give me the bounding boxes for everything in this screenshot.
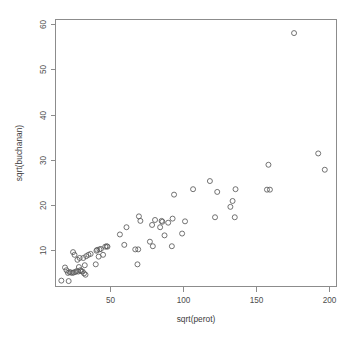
plot-canvas: 50100150200 102030405060 sqrt(perot) sqr… bbox=[0, 0, 357, 342]
data-point bbox=[267, 187, 272, 192]
data-point bbox=[316, 151, 321, 156]
data-point bbox=[233, 187, 238, 192]
x-axis-title: sqrt(perot) bbox=[177, 314, 216, 324]
y-axis-title: sqrt(buchanan) bbox=[14, 125, 24, 182]
data-point bbox=[228, 204, 233, 209]
data-point bbox=[230, 198, 235, 203]
data-point bbox=[122, 242, 127, 247]
data-point bbox=[169, 244, 174, 249]
data-point bbox=[180, 231, 185, 236]
data-point bbox=[153, 217, 158, 222]
scatter-plot-figure: 50100150200 102030405060 sqrt(perot) sqr… bbox=[0, 0, 357, 342]
data-points-group bbox=[59, 31, 327, 284]
data-point bbox=[93, 262, 98, 267]
data-point bbox=[66, 279, 71, 284]
data-point bbox=[124, 225, 129, 230]
data-point bbox=[150, 222, 155, 227]
data-point bbox=[213, 215, 218, 220]
x-axis-tick-labels: 50100150200 bbox=[106, 296, 337, 305]
x-axis-ticks bbox=[111, 287, 330, 292]
data-point bbox=[232, 215, 237, 220]
data-point bbox=[135, 262, 140, 267]
data-point bbox=[117, 232, 122, 237]
data-point bbox=[191, 187, 196, 192]
y-tick-label-30: 30 bbox=[39, 156, 48, 166]
y-axis-tick-labels: 102030405060 bbox=[39, 20, 48, 256]
data-point bbox=[82, 263, 87, 268]
data-point bbox=[158, 225, 163, 230]
y-tick-label-40: 40 bbox=[39, 111, 48, 121]
data-point bbox=[266, 162, 271, 167]
data-point bbox=[207, 179, 212, 184]
y-tick-label-20: 20 bbox=[39, 201, 48, 211]
y-tick-label-50: 50 bbox=[39, 65, 48, 75]
data-point bbox=[59, 278, 64, 283]
data-point bbox=[170, 216, 175, 221]
data-point bbox=[150, 244, 155, 249]
data-point bbox=[166, 220, 171, 225]
data-point bbox=[162, 233, 167, 238]
plot-frame-box bbox=[56, 20, 337, 287]
data-point bbox=[183, 219, 188, 224]
data-point bbox=[172, 192, 177, 197]
x-tick-label-200: 200 bbox=[323, 296, 337, 305]
data-point bbox=[215, 189, 220, 194]
data-point bbox=[147, 239, 152, 244]
data-point bbox=[83, 272, 88, 277]
data-point bbox=[322, 167, 327, 172]
data-point bbox=[136, 247, 141, 252]
x-tick-label-50: 50 bbox=[106, 296, 116, 305]
data-point bbox=[292, 31, 297, 36]
y-tick-label-10: 10 bbox=[39, 246, 48, 256]
data-point bbox=[101, 252, 106, 257]
x-tick-label-100: 100 bbox=[177, 296, 191, 305]
y-axis-ticks bbox=[51, 25, 56, 251]
data-point bbox=[138, 218, 143, 223]
y-tick-label-60: 60 bbox=[39, 20, 48, 30]
x-tick-label-150: 150 bbox=[250, 296, 264, 305]
